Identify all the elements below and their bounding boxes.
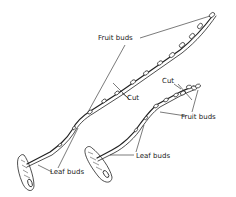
short-branch-fruit-buds-label: Fruit buds [181, 114, 216, 121]
short-branch [85, 83, 201, 182]
branch-diagram [0, 0, 236, 197]
long-branch-base [18, 155, 34, 191]
long-branch-leaf-buds-label: Leaf buds [50, 169, 84, 176]
short-branch-cut-label: Cut [162, 78, 174, 85]
long-branch-fruit-buds-label: Fruit buds [98, 35, 133, 42]
long-branch-cut-label: Cut [127, 95, 139, 102]
long-branch-buds [58, 12, 216, 148]
short-branch-leaf-buds-label: Leaf buds [136, 153, 170, 160]
